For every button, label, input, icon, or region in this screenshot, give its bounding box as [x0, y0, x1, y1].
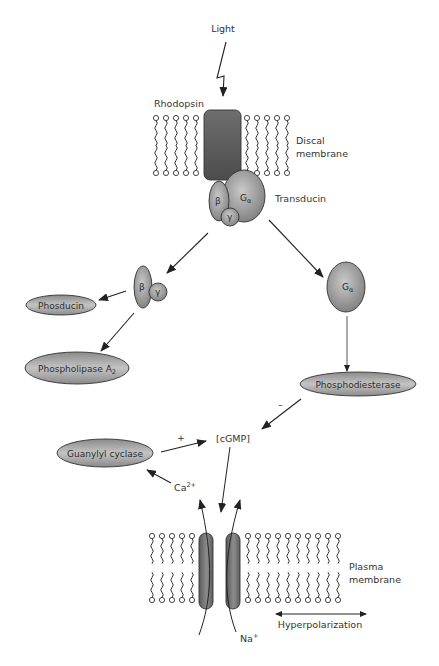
- gamma-label: γ: [227, 212, 233, 222]
- svg-text:γ: γ: [155, 287, 161, 297]
- hyperpolarization-label: Hyperpolarization: [278, 619, 362, 630]
- lightning-arrow-icon: [217, 42, 226, 96]
- arrow-betagamma-to-phosducin: [99, 291, 126, 300]
- phosducin-node: Phosducin: [26, 295, 96, 315]
- minus-sign: –: [278, 399, 283, 410]
- light-label: Light: [211, 23, 235, 34]
- plasma-membrane: [149, 533, 340, 602]
- discal-membrane-left-lipids: [153, 115, 198, 175]
- plasma-membrane-left-lipids: [149, 533, 194, 602]
- plasma-membrane-label-line1: Plasma: [349, 561, 383, 572]
- svg-text:Phosphodiesterase: Phosphodiesterase: [315, 380, 401, 390]
- arrow-calcium-to-guanylyl-cyclase: [147, 470, 171, 483]
- arrow-transducin-to-galpha: [269, 220, 323, 277]
- svg-text:β: β: [139, 282, 145, 292]
- calcium-label: Ca2+: [174, 481, 196, 493]
- beta-gamma-dimer: β γ: [134, 266, 167, 308]
- phototransduction-diagram: Light Rhodopsin Discal membrane β γ Gα T…: [0, 0, 439, 666]
- sodium-label: Na+: [240, 632, 258, 644]
- phosphodiesterase-node: Phosphodiesterase: [300, 372, 416, 396]
- svg-text:Guanylyl cyclase: Guanylyl cyclase: [67, 449, 143, 459]
- plasma-membrane-right-lipids: [245, 533, 340, 602]
- guanylyl-cyclase-node: Guanylyl cyclase: [57, 439, 153, 467]
- arrow-betagamma-to-phospholipase: [101, 313, 134, 351]
- phospholipase-a2-node: Phospholipase A2: [25, 352, 129, 384]
- beta-label: β: [215, 196, 221, 206]
- plasma-membrane-label-line2: membrane: [349, 574, 401, 585]
- rhodopsin-label: Rhodopsin: [154, 98, 204, 109]
- svg-text:Phosducin: Phosducin: [38, 301, 84, 311]
- transducin-label: Transducin: [274, 193, 326, 204]
- discal-membrane-right-lipids: [244, 115, 289, 175]
- rhodopsin-receptor: [204, 110, 241, 180]
- discal-membrane-label-line1: Discal: [296, 135, 325, 146]
- cgmp-label: [cGMP]: [216, 433, 250, 444]
- cgmp-gated-channel: [199, 533, 240, 609]
- arrow-cgmp-to-channel: [221, 447, 230, 512]
- discal-membrane-label-line2: membrane: [296, 148, 348, 159]
- plus-sign: +: [177, 432, 185, 443]
- g-alpha-node: Gα: [327, 262, 365, 312]
- arrow-transducin-to-betagamma: [167, 233, 208, 273]
